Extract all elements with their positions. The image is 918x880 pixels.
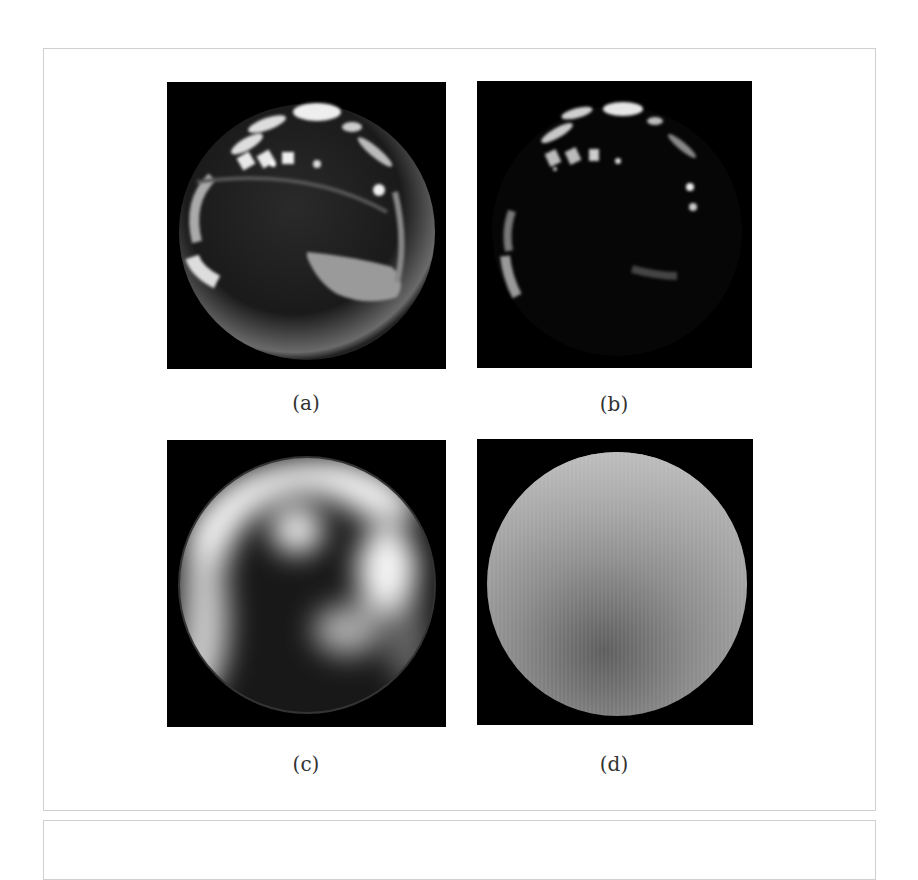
panel-a-image [167,82,446,369]
panel-c-caption: (c) [246,752,366,776]
blurred-lighting-sphere-icon [167,440,446,727]
panel-c-image [167,440,446,727]
next-figure-frame [43,820,876,880]
panel-b-caption: (b) [554,392,674,416]
panel-b-image [477,81,752,368]
diffuse-irradiance-sphere-icon [477,439,753,725]
panel-a-caption: (a) [246,391,366,415]
panel-d-image [477,439,753,725]
panel-d-caption: (d) [554,752,674,776]
mirror-ball-bright-icon [167,82,446,369]
mirror-ball-dark-icon [477,81,752,368]
